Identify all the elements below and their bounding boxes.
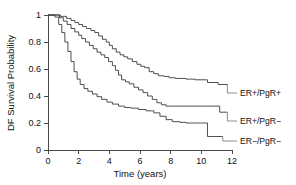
leader-line <box>227 85 237 93</box>
survival-chart-figure: 02468101200.20.40.60.81 ER+/PgR+ER+/PgR−… <box>0 0 296 185</box>
tick-labels: 02468101200.20.40.60.81 <box>28 10 237 166</box>
y-tick-label: 0 <box>36 145 41 155</box>
y-tick-label: 0.4 <box>28 91 41 101</box>
x-tick-label: 0 <box>45 156 50 166</box>
survival-curve <box>48 15 223 137</box>
survival-curve <box>48 15 227 112</box>
x-tick-label: 2 <box>76 156 81 166</box>
x-axis-title: Time (years) <box>114 168 167 179</box>
series-labels: ER+/PgR+ER+/PgR−ER−/PgR− <box>240 88 281 146</box>
x-tick-label: 8 <box>168 156 173 166</box>
survival-curves <box>48 15 227 137</box>
y-tick-label: 0.6 <box>28 64 41 74</box>
y-tick-label: 1 <box>36 10 41 20</box>
label-leader-lines <box>223 85 237 141</box>
y-tick-label: 0.8 <box>28 37 41 47</box>
x-tick-label: 6 <box>137 156 142 166</box>
series-label: ER+/PgR+ <box>240 88 281 98</box>
y-tick-label: 0.2 <box>28 118 41 128</box>
x-tick-label: 12 <box>227 156 237 166</box>
y-axis-title: DF Survival Probability <box>5 35 16 131</box>
leader-line <box>223 137 237 142</box>
series-label: ER+/PgR− <box>240 116 281 126</box>
series-label: ER−/PgR− <box>240 136 281 146</box>
x-tick-label: 10 <box>196 156 206 166</box>
leader-line <box>227 112 237 121</box>
survival-curve <box>48 15 227 85</box>
axes <box>44 15 232 154</box>
x-tick-label: 4 <box>107 156 112 166</box>
chart-canvas: 02468101200.20.40.60.81 ER+/PgR+ER+/PgR−… <box>0 0 296 185</box>
